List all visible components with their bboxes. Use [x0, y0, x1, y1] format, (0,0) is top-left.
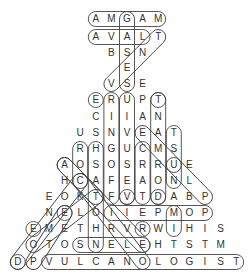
grid-letter[interactable]: R [136, 222, 150, 236]
grid-letter[interactable]: F [104, 190, 118, 204]
grid-letter[interactable]: L [151, 255, 165, 269]
grid-letter[interactable]: O [136, 255, 150, 269]
grid-letter[interactable]: A [136, 174, 150, 188]
grid-letter[interactable]: L [120, 238, 134, 252]
grid-letter[interactable]: E [58, 206, 72, 220]
grid-letter[interactable]: N [120, 255, 134, 269]
grid-letter[interactable]: C [73, 174, 87, 188]
grid-letter[interactable]: H [58, 174, 72, 188]
grid-letter[interactable]: M [167, 206, 181, 220]
grid-letter[interactable]: N [167, 174, 181, 188]
grid-letter[interactable]: V [104, 77, 118, 91]
grid-letter[interactable]: V [120, 222, 134, 236]
grid-letter[interactable]: I [198, 222, 212, 236]
grid-letter[interactable]: E [136, 126, 150, 140]
grid-letter[interactable]: A [89, 174, 103, 188]
grid-letter[interactable]: T [167, 238, 181, 252]
grid-letter[interactable]: O [58, 238, 72, 252]
grid-letter[interactable]: R [151, 158, 165, 172]
grid-letter[interactable]: T [229, 255, 243, 269]
grid-letter[interactable]: H [89, 222, 103, 236]
grid-letter[interactable]: U [73, 126, 87, 140]
grid-letter[interactable]: A [120, 30, 134, 44]
grid-letter[interactable]: B [182, 190, 196, 204]
grid-letter[interactable]: E [104, 238, 118, 252]
grid-letter[interactable]: M [151, 142, 165, 156]
grid-letter[interactable]: C [89, 110, 103, 124]
grid-letter[interactable]: N [42, 206, 56, 220]
grid-letter[interactable]: A [136, 110, 150, 124]
grid-letter[interactable]: H [89, 142, 103, 156]
grid-letter[interactable]: E [89, 93, 103, 107]
grid-letter[interactable]: T [42, 238, 56, 252]
grid-letter[interactable]: T [89, 190, 103, 204]
grid-letter[interactable]: E [120, 61, 134, 75]
grid-letter[interactable]: M [104, 12, 118, 26]
grid-letter[interactable]: U [120, 142, 134, 156]
grid-letter[interactable]: A [167, 190, 181, 204]
grid-letter[interactable]: I [120, 206, 134, 220]
grid-letter[interactable]: A [58, 158, 72, 172]
grid-letter[interactable]: T [198, 238, 212, 252]
grid-letter[interactable]: L [73, 206, 87, 220]
grid-letter[interactable]: I [104, 206, 118, 220]
grid-letter[interactable]: E [42, 190, 56, 204]
grid-letter[interactable]: R [136, 158, 150, 172]
grid-letter[interactable]: A [89, 30, 103, 44]
grid-letter[interactable]: S [120, 77, 134, 91]
grid-letter[interactable]: G [104, 142, 118, 156]
grid-letter[interactable]: O [104, 158, 118, 172]
grid-letter[interactable]: P [26, 255, 40, 269]
grid-letter[interactable]: D [151, 190, 165, 204]
grid-letter[interactable]: E [120, 174, 134, 188]
grid-letter[interactable]: A [104, 255, 118, 269]
grid-letter[interactable]: S [89, 126, 103, 140]
grid-letter[interactable]: O [58, 190, 72, 204]
grid-letter[interactable]: V [120, 126, 134, 140]
grid-letter[interactable]: S [89, 158, 103, 172]
grid-letter[interactable]: S [214, 255, 228, 269]
grid-letter[interactable]: O [89, 206, 103, 220]
grid-letter[interactable]: R [73, 142, 87, 156]
grid-letter[interactable]: L [182, 174, 196, 188]
grid-letter[interactable]: U [58, 255, 72, 269]
grid-letter[interactable]: V [104, 30, 118, 44]
grid-letter[interactable]: S [120, 158, 134, 172]
grid-letter[interactable]: U [167, 158, 181, 172]
grid-letter[interactable]: V [120, 190, 134, 204]
grid-letter[interactable]: N [151, 110, 165, 124]
grid-letter[interactable]: O [26, 238, 40, 252]
grid-letter[interactable]: O [151, 174, 165, 188]
grid-letter[interactable]: O [167, 255, 181, 269]
grid-letter[interactable]: T [151, 93, 165, 107]
grid-letter[interactable]: E [26, 222, 40, 236]
grid-letter[interactable]: S [167, 142, 181, 156]
grid-letter[interactable]: I [167, 222, 181, 236]
grid-letter[interactable]: N [136, 46, 150, 60]
grid-letter[interactable]: E [136, 77, 150, 91]
grid-letter[interactable]: E [182, 158, 196, 172]
grid-letter[interactable]: T [136, 190, 150, 204]
grid-letter[interactable]: U [120, 93, 134, 107]
grid-letter[interactable]: D [11, 255, 25, 269]
grid-letter[interactable]: E [136, 206, 150, 220]
grid-letter[interactable]: S [214, 222, 228, 236]
grid-letter[interactable]: M [42, 222, 56, 236]
grid-letter[interactable]: N [104, 126, 118, 140]
grid-letter[interactable]: L [136, 30, 150, 44]
grid-letter[interactable]: K [73, 190, 87, 204]
grid-letter[interactable]: A [151, 126, 165, 140]
grid-letter[interactable]: R [104, 93, 118, 107]
grid-letter[interactable]: I [120, 110, 134, 124]
grid-letter[interactable]: T [167, 126, 181, 140]
grid-letter[interactable]: E [58, 222, 72, 236]
grid-letter[interactable]: O [182, 206, 196, 220]
grid-letter[interactable]: M [151, 12, 165, 26]
grid-letter[interactable]: C [89, 255, 103, 269]
grid-letter[interactable]: N [89, 238, 103, 252]
grid-letter[interactable]: R [104, 222, 118, 236]
grid-letter[interactable]: H [151, 238, 165, 252]
grid-letter[interactable]: H [182, 222, 196, 236]
grid-letter[interactable]: P [198, 190, 212, 204]
grid-letter[interactable]: P [198, 206, 212, 220]
